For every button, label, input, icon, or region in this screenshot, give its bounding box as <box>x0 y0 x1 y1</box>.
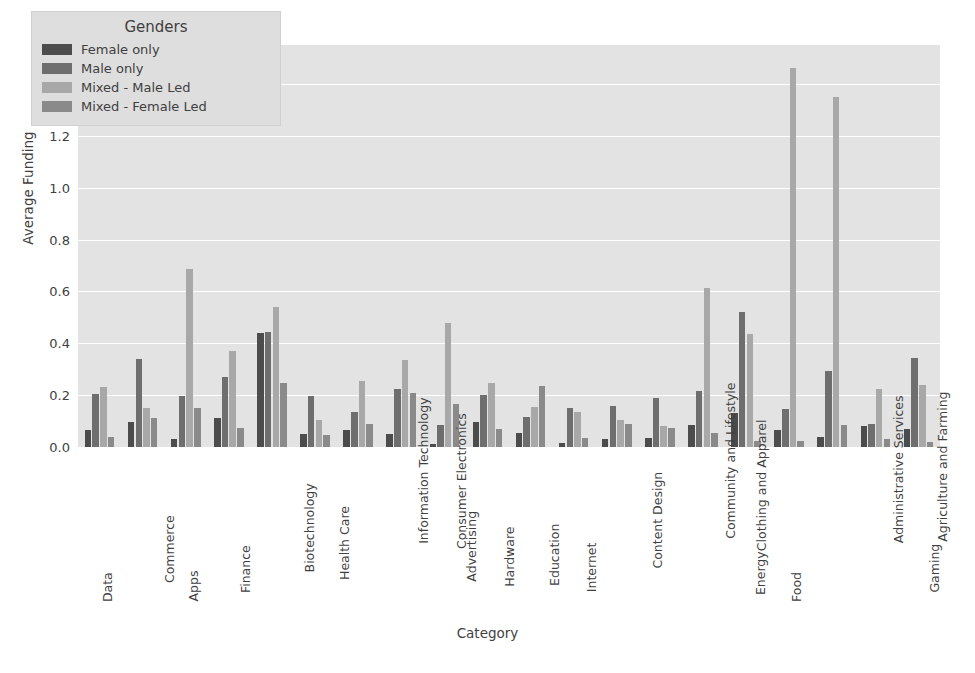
legend-entry: Male only <box>42 59 270 77</box>
legend-label: Mixed - Male Led <box>81 80 191 95</box>
bar <box>876 389 883 447</box>
legend-swatch <box>42 63 72 74</box>
legend-swatch <box>42 44 72 55</box>
bar <box>833 97 840 447</box>
bar <box>366 424 373 447</box>
bar <box>194 408 201 447</box>
bar <box>774 430 781 447</box>
gridline <box>78 291 940 292</box>
bar <box>645 438 652 447</box>
bar <box>351 412 358 447</box>
bar <box>143 408 150 447</box>
bar <box>523 417 530 447</box>
bar <box>516 433 523 447</box>
gridline <box>78 447 940 448</box>
x-tick-label: Administrative Services <box>891 395 906 543</box>
bar <box>386 434 393 447</box>
bar <box>473 422 480 447</box>
gridline <box>78 136 940 137</box>
x-tick-label: Clothing and Apparel <box>754 420 769 552</box>
y-tick-label: 0.2 <box>4 388 70 403</box>
bar <box>128 422 135 447</box>
bar <box>653 398 660 447</box>
y-tick-label: 0.6 <box>4 284 70 299</box>
bar <box>480 395 487 447</box>
bar <box>582 438 589 447</box>
bar <box>711 433 718 447</box>
bar <box>410 393 417 447</box>
bar <box>92 394 99 447</box>
bar <box>308 396 315 447</box>
bar <box>265 332 272 447</box>
bar <box>797 441 804 447</box>
bar <box>825 371 832 448</box>
legend-title: Genders <box>42 18 270 36</box>
gridline <box>78 188 940 189</box>
bar <box>927 442 934 447</box>
bar <box>539 386 546 447</box>
legend-swatch <box>42 101 72 112</box>
gridline <box>78 343 940 344</box>
gridline <box>78 395 940 396</box>
x-tick-label: Agriculture and Farming <box>936 391 951 541</box>
bar <box>316 420 323 447</box>
bar <box>100 387 107 447</box>
bar <box>567 408 574 447</box>
y-tick-label: 0.8 <box>4 232 70 247</box>
bar <box>911 358 918 447</box>
x-tick-label: Health Care <box>337 506 352 580</box>
bar <box>660 426 667 447</box>
x-axis-label: Category <box>0 625 975 641</box>
bar <box>151 418 158 447</box>
bar <box>343 430 350 447</box>
bar <box>214 418 221 447</box>
x-tick-label: Biotechnology <box>301 483 316 572</box>
bar <box>747 334 754 447</box>
legend-entry: Mixed - Male Led <box>42 78 270 96</box>
x-tick-label: Energy <box>753 551 768 595</box>
bar <box>394 389 401 447</box>
x-tick-label: Finance <box>238 545 253 593</box>
chart-figure: 1e8 0.00.20.40.60.81.01.21.4 Average Fun… <box>0 0 975 673</box>
y-tick-label: 1.0 <box>4 180 70 195</box>
x-axis-ticks: DataCommerceAppsFinanceBiotechnologyHeal… <box>78 452 940 617</box>
bar <box>790 68 797 447</box>
x-tick-label: Community and Lifestyle <box>723 383 738 539</box>
x-tick-label: Advertising <box>465 511 480 582</box>
x-tick-label: Internet <box>583 543 598 593</box>
bar <box>488 383 495 447</box>
bar <box>222 377 229 447</box>
bar <box>688 425 695 447</box>
bar <box>782 409 789 447</box>
legend: Genders Female onlyMale onlyMixed - Male… <box>31 11 281 126</box>
y-tick-label: 1.2 <box>4 128 70 143</box>
bar <box>229 351 236 447</box>
bar <box>559 443 566 447</box>
legend-label: Male only <box>81 61 143 76</box>
x-tick-label: Gaming <box>928 544 943 593</box>
bar <box>85 430 92 447</box>
bar <box>574 412 581 447</box>
bar <box>323 435 330 447</box>
bar <box>402 360 409 447</box>
x-tick-label: Food <box>789 572 804 602</box>
x-tick-label: Apps <box>186 571 201 602</box>
bar <box>445 323 452 447</box>
legend-swatch <box>42 82 72 93</box>
x-tick-label: Information Technology <box>416 397 431 543</box>
legend-entry: Mixed - Female Led <box>42 97 270 115</box>
legend-label: Female only <box>81 42 160 57</box>
x-tick-label: Content Design <box>650 472 665 569</box>
y-tick-label: 0.0 <box>4 440 70 455</box>
bar <box>257 333 264 447</box>
bar <box>919 385 926 447</box>
bar <box>817 437 824 447</box>
y-tick-label: 0.4 <box>4 336 70 351</box>
bar <box>496 429 503 447</box>
x-tick-label: Education <box>547 524 562 586</box>
bar <box>437 425 444 447</box>
bar <box>884 439 891 447</box>
bar <box>602 439 609 447</box>
bar <box>171 439 178 447</box>
legend-entries: Female onlyMale onlyMixed - Male LedMixe… <box>42 40 270 115</box>
